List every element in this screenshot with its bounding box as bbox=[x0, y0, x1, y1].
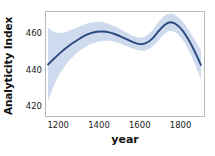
x-tick-label: 1600 bbox=[120, 120, 160, 130]
y-axis-tick-labels: 420440460 bbox=[16, 0, 42, 156]
plot-area bbox=[45, 11, 205, 117]
y-axis-title: Analyticity Index bbox=[1, 1, 15, 131]
x-axis-tick-labels: 1200140016001800 bbox=[0, 120, 215, 132]
x-tick-label: 1400 bbox=[79, 120, 119, 130]
x-tick-label: 1800 bbox=[161, 120, 201, 130]
plot-svg bbox=[46, 12, 204, 116]
analyticity-index-chart: Analyticity Index 420440460 120014001600… bbox=[0, 0, 215, 156]
y-tick-label: 460 bbox=[18, 29, 42, 37]
x-tick-label: 1200 bbox=[38, 120, 78, 130]
x-axis-title: year bbox=[45, 133, 205, 146]
y-tick-label: 440 bbox=[18, 66, 42, 74]
y-tick-label: 420 bbox=[18, 102, 42, 110]
